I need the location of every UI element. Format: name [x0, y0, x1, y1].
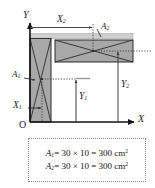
formula-box: A1= 30 × 10 = 300 cm2 A2= 30 × 10 = 300 … — [28, 138, 146, 182]
dimension-label-y2-sub: 2 — [126, 83, 129, 89]
formula-a2-expression: = 30 × 10 = 300 cm — [54, 161, 125, 171]
formula-a1-expression: = 30 × 10 = 300 cm — [54, 148, 125, 158]
area-label-a2-sub: 2 — [107, 25, 110, 31]
origin-label: O — [19, 120, 26, 130]
dimension-label-y2: Y2 — [121, 80, 129, 90]
dimension-label-x2: X2 — [57, 15, 66, 25]
dimension-label-y1: Y1 — [79, 92, 87, 102]
formula-line-a2: A2= 30 × 10 = 300 cm2 — [46, 162, 128, 172]
centroid-diagram-figure: Y X O X2 X1 Y1 Y2 A1 A2 A1= 30 × 10 = 30… — [0, 0, 155, 188]
formula-a2-exponent: 2 — [125, 161, 128, 167]
area-label-a2: A2 — [101, 22, 109, 32]
centroid-marker-a1 — [41, 78, 43, 80]
centroid-marker-a2 — [92, 50, 94, 52]
area-label-a1-sub: 1 — [18, 73, 21, 79]
formula-line-a1: A1= 30 × 10 = 300 cm2 — [46, 149, 128, 159]
dimension-label-x1-sub: 1 — [19, 104, 22, 110]
dimension-label-x2-sub: 2 — [63, 18, 66, 24]
area-label-a1: A1 — [12, 70, 20, 80]
y-axis-label: Y — [23, 10, 29, 20]
x-axis-label: X — [138, 114, 144, 124]
shape-a1-vertical-member — [30, 39, 51, 123]
formula-a1-exponent: 2 — [125, 148, 128, 154]
top-light-strip — [30, 34, 133, 39]
dimension-label-x1: X1 — [13, 101, 22, 111]
dimension-label-y1-sub: 1 — [84, 95, 87, 101]
